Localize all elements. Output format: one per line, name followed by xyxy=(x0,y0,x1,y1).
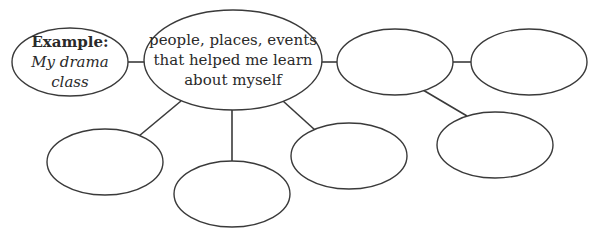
center-line1: people, places, events xyxy=(144,30,322,50)
edge-center-bottomright xyxy=(283,101,315,130)
blank-node-bottom-left xyxy=(47,129,163,195)
blank-node-right-lower xyxy=(437,112,553,178)
edge-right1-rightlower xyxy=(423,90,467,116)
blank-node-right-2 xyxy=(471,29,587,95)
example-node-text: Example: My drama class xyxy=(12,32,128,92)
example-value-line1: My drama xyxy=(12,52,128,72)
center-node-text: people, places, events that helped me le… xyxy=(144,30,322,90)
blank-node-right-1 xyxy=(337,29,453,95)
center-line2: that helped me learn xyxy=(144,50,322,70)
blank-node-bottom-middle xyxy=(174,161,290,227)
blank-node-bottom-right xyxy=(291,123,407,189)
example-value-line2: class xyxy=(12,72,128,92)
center-line3: about myself xyxy=(144,70,322,90)
edge-center-bottomleft xyxy=(139,101,181,136)
example-label: Example: xyxy=(12,32,128,52)
